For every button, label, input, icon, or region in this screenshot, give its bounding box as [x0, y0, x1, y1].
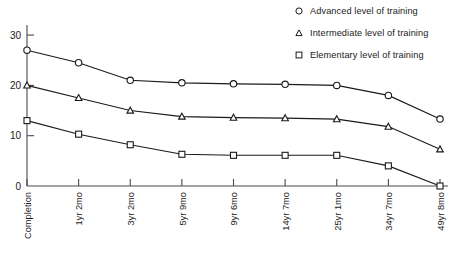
square-marker-icon	[288, 49, 310, 61]
y-tick-label: 20	[10, 80, 22, 91]
data-point-marker	[282, 152, 288, 158]
series-2	[24, 82, 444, 152]
data-point-marker	[230, 81, 236, 87]
data-point-marker	[179, 80, 185, 86]
legend-label-advanced: Advanced level of training	[310, 6, 418, 16]
legend-item-advanced: Advanced level of training	[288, 0, 461, 22]
data-point-marker	[179, 151, 185, 157]
data-point-marker	[437, 183, 443, 189]
data-series-group	[24, 47, 444, 189]
data-point-marker	[334, 152, 340, 158]
x-tick-label: 9yr 6mo	[229, 192, 239, 226]
x-tick-label: Completion	[23, 192, 33, 239]
y-tick-label: 10	[10, 130, 22, 141]
x-tick-label: 49yr 8mo	[436, 192, 446, 231]
data-point-marker	[385, 92, 391, 98]
x-tick-label: 1yr 2mo	[74, 192, 84, 226]
data-point-marker	[282, 81, 288, 87]
x-tick-label: 3yr 2mo	[126, 192, 136, 226]
data-point-marker	[24, 47, 30, 53]
x-tick-label: 14yr 7mo	[281, 192, 291, 231]
data-point-marker	[76, 131, 82, 137]
x-tick-label: 5yr 9mo	[178, 192, 188, 226]
legend-item-intermediate: Intermediate level of training	[288, 22, 461, 44]
data-point-marker	[231, 152, 237, 158]
chart-container: Advanced level of training Intermediate …	[0, 0, 461, 280]
x-tick-label: 34yr 7mo	[384, 192, 394, 231]
data-point-marker	[437, 116, 443, 122]
legend-item-elementary: Elementary level of training	[288, 44, 461, 66]
legend-label-elementary: Elementary level of training	[310, 50, 424, 60]
x-tick-label: 25yr 1mo	[333, 192, 343, 231]
y-tick-label: 0	[15, 181, 21, 192]
triangle-marker-icon	[288, 27, 310, 39]
data-point-marker	[75, 60, 81, 66]
data-point-marker	[334, 82, 340, 88]
series-3	[24, 118, 443, 189]
legend-label-intermediate: Intermediate level of training	[310, 28, 428, 38]
data-point-marker	[385, 163, 391, 169]
x-axis: Completion1yr 2mo3yr 2mo5yr 9mo9yr 6mo14…	[23, 179, 448, 239]
data-point-marker	[24, 118, 30, 124]
data-point-marker	[127, 142, 133, 148]
y-tick-label: 30	[10, 30, 22, 41]
chart-legend: Advanced level of training Intermediate …	[288, 0, 461, 66]
circle-marker-icon	[288, 5, 310, 17]
data-point-marker	[127, 77, 133, 83]
